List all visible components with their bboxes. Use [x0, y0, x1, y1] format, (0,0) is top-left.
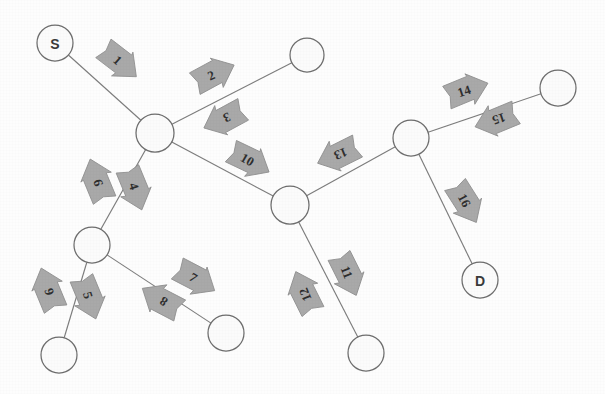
graph-node[interactable] [41, 337, 77, 373]
flow-arrow: 14 [441, 68, 493, 112]
node-circle [74, 227, 110, 263]
node-circle [136, 114, 174, 152]
flow-arrow: 2 [187, 50, 240, 97]
network-graph: 12345678910111213141516 SD [0, 0, 605, 394]
graph-node[interactable] [348, 335, 384, 371]
flow-arrow: 13 [312, 132, 365, 178]
flow-arrow: 6 [26, 263, 70, 315]
graph-node[interactable] [271, 186, 309, 224]
flow-arrow: 9 [75, 154, 119, 206]
graph-node[interactable] [74, 227, 110, 263]
graph-node-S[interactable]: S [37, 25, 73, 61]
flow-arrow: 5 [67, 272, 111, 324]
flow-arrow: 3 [197, 95, 250, 142]
graph-node[interactable] [136, 114, 174, 152]
graph-node[interactable] [208, 315, 244, 351]
flow-arrow: 12 [281, 266, 327, 319]
flow-arrow: 1 [93, 35, 147, 88]
arrows-layer: 12345678910111213141516 [26, 35, 522, 325]
node-circle [393, 120, 429, 156]
node-label: D [475, 273, 485, 289]
node-circle [208, 315, 244, 351]
diagram-canvas: 12345678910111213141516 SD [0, 0, 605, 394]
node-label: S [50, 36, 59, 52]
node-circle [540, 70, 576, 106]
flow-arrow: 16 [442, 176, 491, 230]
graph-node-D[interactable]: D [462, 262, 498, 298]
flow-arrow: 4 [113, 163, 157, 215]
node-circle [348, 335, 384, 371]
flow-arrow: 15 [470, 98, 522, 142]
graph-node[interactable] [393, 120, 429, 156]
node-circle [41, 337, 77, 373]
graph-node[interactable] [290, 38, 324, 72]
flow-arrow: 11 [325, 249, 371, 302]
flow-arrow: 10 [223, 136, 277, 186]
node-circle [271, 186, 309, 224]
node-circle [290, 38, 324, 72]
graph-node[interactable] [540, 70, 576, 106]
